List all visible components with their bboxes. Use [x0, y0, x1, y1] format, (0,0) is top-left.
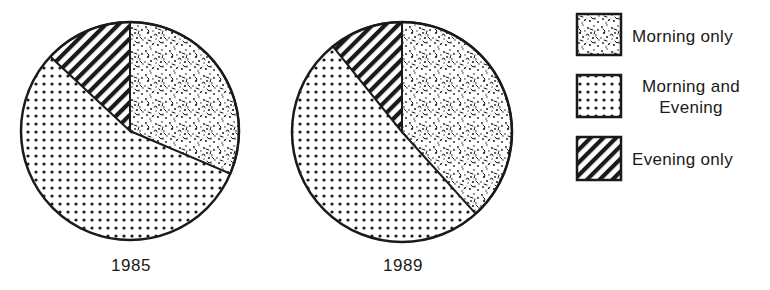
legend-label-morning-and-evening-line2: Evening: [632, 97, 750, 118]
legend-label-morning-only: Morning only: [632, 26, 733, 47]
legend-swatch-morning-and-evening: [577, 75, 621, 117]
legend-swatch-morning-only: [577, 14, 621, 55]
year-label-1985: 1985: [91, 256, 171, 276]
year-label-1989: 1989: [363, 256, 443, 276]
legend-swatch-evening-only: [577, 137, 621, 180]
legend: [577, 14, 621, 180]
legend-label-morning-and-evening-line1: Morning and: [632, 76, 750, 97]
pie-1985: [21, 22, 239, 240]
legend-label-evening-only: Evening only: [632, 149, 733, 170]
pie-1989: [292, 22, 512, 242]
